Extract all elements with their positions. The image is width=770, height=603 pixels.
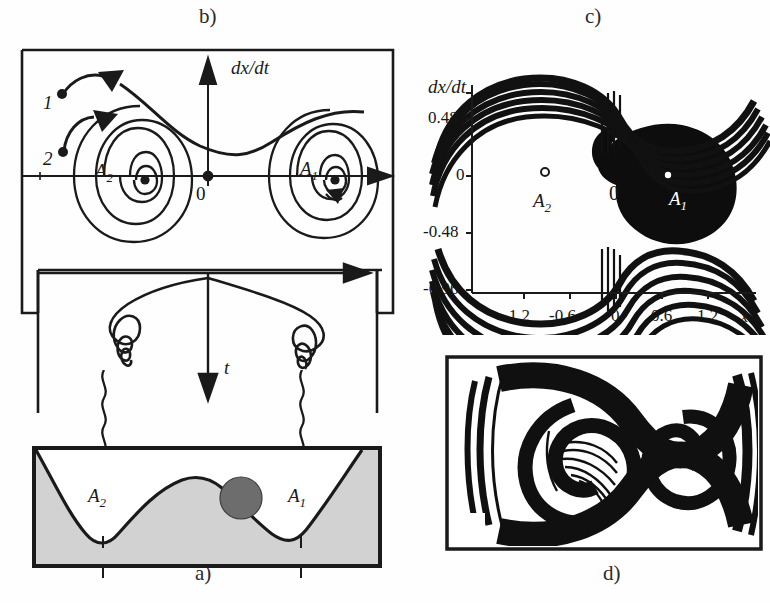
panel-b-timeseries-right: [208, 278, 324, 369]
panel-c-ytick-label-0: 0: [456, 165, 465, 185]
panel-b-y-axis-arrow: [200, 58, 216, 84]
panel-a-ball: [220, 477, 262, 519]
panel-c-A1-label: A1: [669, 188, 687, 214]
panel-c-A2-marker: [541, 168, 549, 176]
panel-c-xtick-label-neg06: -0.6: [549, 306, 576, 326]
panel-b-trajectory-1-label: 1: [43, 92, 53, 114]
panel-c-A1-label-sub: 1: [681, 198, 688, 213]
panel-b-trajectory-1-arrowhead: [98, 70, 124, 92]
panel-c-ytick-label-neg048: -0.48: [423, 222, 458, 242]
panel-c-xtick-label-neg12: -1.2: [503, 306, 530, 326]
panel-b-A2-label-main: A: [95, 160, 107, 181]
panel-b-A2-label-sub: 2: [107, 170, 114, 185]
panel-c-y-axis-label: dx/dt: [428, 76, 466, 98]
panel-c-xtick-label-12: 1.2: [697, 306, 718, 326]
figure-root: b) c) a) d): [0, 0, 770, 603]
panel-b-A2-focus-dot: [140, 175, 149, 184]
panel-c-x-axis-label: x: [740, 305, 748, 327]
panel-c-xtick-label-0: 0: [611, 306, 620, 326]
panel-a-A2-label-main: A: [88, 485, 100, 506]
panel-b-A1-label-main: A: [300, 158, 312, 179]
panel-c-A2-label-main: A: [533, 190, 545, 211]
panel-a-A1-label-sub: 1: [300, 495, 307, 510]
panel-b-frame-right-bracket: [377, 238, 393, 313]
panel-c-ytick-label-neg096: -0.96: [423, 279, 458, 299]
panel-c-origin-label: 0: [609, 182, 619, 205]
panel-b-A1-focus-dot: [330, 175, 339, 184]
panel-b-spiral-A1: [269, 110, 378, 238]
panel-b-caption: b): [199, 4, 217, 29]
panel-a-A1-label: A1: [288, 485, 306, 511]
panel-a-A1-label-main: A: [288, 485, 300, 506]
panel-c-A2-label-sub: 2: [545, 200, 552, 215]
panel-b-A1-label-sub: 1: [312, 168, 319, 183]
panel-b-timeseries-left: [110, 278, 208, 366]
panel-d-notch: [451, 513, 485, 546]
panel-a-A2-label-sub: 2: [100, 495, 107, 510]
panel-b-frame-left-bracket: [22, 238, 38, 313]
panel-c-caption: c): [585, 4, 601, 29]
panel-a-A2-label: A2: [88, 485, 106, 511]
panel-d-caption: d): [603, 561, 621, 586]
panel-b-A2-label: A2: [95, 160, 113, 186]
panel-b-time-h-axis-arrow: [344, 264, 370, 282]
panel-c-xtick-label-06: 0.6: [651, 306, 672, 326]
panel-b-origin-label: 0: [196, 183, 206, 205]
panel-c-band-lower-2: [434, 259, 758, 338]
panel-b-spiral-A2: [74, 106, 192, 242]
panel-b-y-axis-label: dx/dt: [231, 57, 269, 79]
panel-c-A2-label: A2: [533, 190, 551, 216]
panel-c-A1-label-main: A: [669, 188, 681, 209]
panel-b-x-axis-arrow: [368, 168, 392, 184]
panel-d-graphic: [445, 355, 765, 555]
panel-b-trajectory-2-start-dot: [58, 147, 68, 157]
panel-b-trajectory-1-start-dot: [57, 89, 67, 99]
panel-c-ytick-label-048: 0.48: [428, 108, 458, 128]
panel-b-trajectory-2-label: 2: [43, 148, 53, 170]
panel-b-origin-dot: [204, 172, 213, 181]
panel-a-graphic: [0, 424, 420, 584]
panel-b-A1-label: A1: [300, 158, 318, 184]
panel-c-A1-marker: [665, 172, 671, 178]
